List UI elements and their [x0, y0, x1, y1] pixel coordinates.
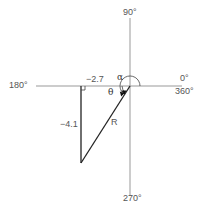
label-360-degrees: 360° — [175, 87, 194, 96]
horizontal-side-label: −2.7 — [86, 75, 104, 84]
theta-label: θ — [108, 88, 113, 97]
label-270-degrees: 270° — [123, 194, 142, 203]
triangle-hypotenuse — [81, 86, 130, 163]
label-90-degrees: 90° — [123, 8, 137, 17]
label-180-degrees: 180° — [9, 81, 28, 90]
vertical-side-label: −4.1 — [60, 120, 78, 129]
diagram-canvas — [0, 0, 200, 214]
hypotenuse-label: R — [111, 118, 118, 127]
alpha-label: α — [117, 73, 123, 82]
label-0-degrees: 0° — [180, 74, 189, 83]
